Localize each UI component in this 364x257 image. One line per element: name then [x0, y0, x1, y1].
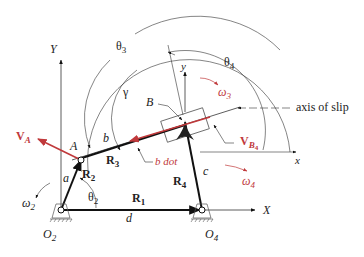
label-R2: R2: [82, 167, 96, 183]
label-axis-of-slip: axis of slip: [296, 100, 349, 114]
omega2-arc: [36, 183, 50, 198]
label-theta3: θ3: [116, 39, 127, 55]
theta3-outer-arc: [135, 16, 280, 50]
label-O2: O2: [43, 227, 57, 243]
ground-O2: [50, 204, 72, 222]
label-X: X: [262, 203, 271, 217]
label-R4: R4: [173, 174, 187, 190]
label-x-local: x: [294, 154, 300, 166]
b-dot-pointer: [138, 148, 153, 162]
label-omega3: ω3: [218, 85, 231, 101]
gamma-right-arc: [168, 52, 175, 55]
label-VA: VA: [16, 129, 31, 145]
theta3-arc: [88, 60, 290, 170]
label-gamma: γ: [122, 85, 129, 99]
label-O4: O4: [205, 227, 219, 243]
label-y-local: y: [180, 60, 186, 72]
omega4-arc: [225, 165, 247, 171]
label-c: c: [203, 164, 209, 178]
link-R2: [61, 160, 81, 210]
label-b-dot: b dot: [155, 155, 178, 167]
gamma-arc: [111, 70, 137, 150]
label-R1: R1: [132, 191, 146, 207]
b-dot-arrow: [130, 117, 210, 141]
label-omega4: ω4: [242, 174, 255, 190]
omega3-arc: [200, 78, 218, 85]
label-a: a: [63, 171, 69, 185]
VB4-pointer: [214, 125, 234, 143]
label-VB4: VB4: [240, 134, 259, 152]
label-Y: Y: [50, 42, 58, 56]
label-B: B: [146, 95, 154, 109]
ground-O4: [191, 204, 213, 222]
label-theta4: θ4: [224, 55, 235, 71]
label-R3: R3: [106, 153, 120, 169]
label-A: A: [69, 139, 78, 153]
label-omega2: ω2: [22, 196, 35, 212]
label-theta2: θ2: [88, 190, 98, 206]
link4-extension: [168, 45, 183, 115]
label-d: d: [126, 211, 133, 225]
B-pointer: [158, 104, 182, 120]
label-b: b: [103, 131, 109, 145]
pin-A: [78, 157, 84, 163]
linkage-diagram: Y X θ3 θ4 γ B y x ω3 axis of slip VA A b…: [0, 0, 364, 257]
